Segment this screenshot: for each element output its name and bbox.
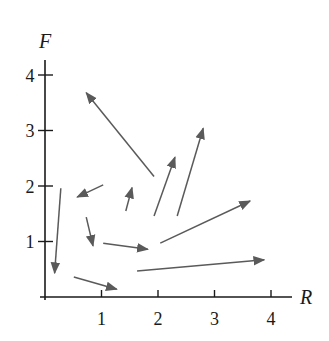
x-axis-label: R xyxy=(299,286,312,308)
x-tick-label: 3 xyxy=(210,309,219,329)
vector-arrow-icon xyxy=(177,128,203,216)
y-tick-label: 3 xyxy=(26,121,35,141)
y-tick-label: 2 xyxy=(26,177,35,197)
y-tick-label: 1 xyxy=(26,232,35,252)
vector-arrow-icon xyxy=(55,188,61,273)
direction-field-plot: 1 2 3 4 1 2 3 4 F R xyxy=(0,0,329,341)
x-tick-label: 2 xyxy=(154,309,163,329)
vector-arrow-icon xyxy=(103,243,148,249)
vector-arrow-icon xyxy=(160,201,250,243)
x-tick-label: 1 xyxy=(97,309,106,329)
y-axis-label: F xyxy=(38,30,52,52)
vector-arrow-icon xyxy=(154,157,175,216)
y-tick-label: 4 xyxy=(26,66,35,86)
x-tick-label: 4 xyxy=(267,309,276,329)
vector-arrow-icon xyxy=(86,93,154,177)
vector-field xyxy=(55,93,265,289)
x-ticks xyxy=(102,290,272,297)
vector-arrow-icon xyxy=(137,260,264,271)
vector-arrow-icon xyxy=(77,185,103,197)
vector-arrow-icon xyxy=(86,217,93,246)
vector-arrow-icon xyxy=(126,188,132,211)
vector-arrow-icon xyxy=(74,277,117,289)
